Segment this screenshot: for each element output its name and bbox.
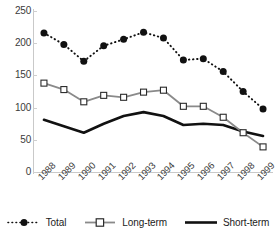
x-axis-tick-mark <box>144 172 145 175</box>
total-marker <box>220 68 227 75</box>
long-term-marker <box>180 103 186 109</box>
long-term-marker <box>240 130 246 136</box>
legend-solid-line-icon <box>184 217 218 228</box>
total-marker <box>120 36 127 43</box>
x-axis-labels: 1988198919901991199219931994199519961997… <box>0 173 276 213</box>
line-chart: 250200150100500 198819891990199119921993… <box>0 0 276 234</box>
legend-label-total: Total <box>46 217 67 228</box>
long-term-marker <box>160 87 166 93</box>
x-axis-tick-mark <box>44 172 45 175</box>
legend-item-total: Total <box>7 217 67 228</box>
x-axis-tick-mark <box>104 172 105 175</box>
long-term-marker <box>41 80 47 86</box>
legend-dotted-circle-icon <box>7 217 41 228</box>
long-term-marker <box>101 92 107 98</box>
chart-legend: Total Long-term Short-term <box>0 212 276 232</box>
total-marker <box>80 58 87 65</box>
total-marker <box>240 88 247 95</box>
long-term-marker <box>220 114 226 120</box>
long-term-marker <box>141 89 147 95</box>
short-term-line <box>44 112 263 136</box>
x-axis-tick-mark <box>163 172 164 175</box>
long-term-marker <box>200 103 206 109</box>
series-total <box>40 29 266 113</box>
total-marker <box>260 105 267 112</box>
legend-item-long-term: Long-term <box>83 217 167 228</box>
long-term-marker <box>61 87 67 93</box>
total-marker <box>60 41 67 48</box>
x-axis-tick-mark <box>203 172 204 175</box>
long-term-marker <box>81 99 87 105</box>
x-axis-tick-mark <box>64 172 65 175</box>
long-term-marker <box>260 144 266 150</box>
total-marker <box>200 55 207 62</box>
total-marker <box>100 42 107 49</box>
total-marker <box>180 56 187 63</box>
total-marker <box>160 35 167 42</box>
x-axis-tick-mark <box>243 172 244 175</box>
x-axis-tick-mark <box>124 172 125 175</box>
legend-label-short-term: Short-term <box>223 217 269 228</box>
series-short-term <box>44 112 263 136</box>
x-axis-tick-mark <box>263 172 264 175</box>
legend-label-long-term: Long-term <box>122 217 167 228</box>
legend-gray-square-icon <box>83 217 117 228</box>
legend-item-short-term: Short-term <box>184 217 269 228</box>
x-axis-tick-mark <box>84 172 85 175</box>
x-axis-tick-mark <box>223 172 224 175</box>
long-term-marker <box>121 94 127 100</box>
total-marker <box>40 29 47 36</box>
x-axis-tick-mark <box>183 172 184 175</box>
total-marker <box>140 29 147 36</box>
